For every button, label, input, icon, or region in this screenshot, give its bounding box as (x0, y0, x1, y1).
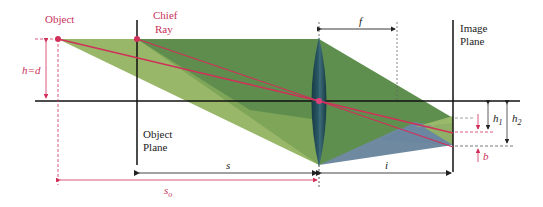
chief-ray-label-1: Chief (153, 9, 178, 21)
light-cones (58, 39, 453, 165)
object-label: Object (45, 13, 74, 25)
h2-label: h2 (512, 112, 522, 127)
object-point (55, 36, 61, 42)
image-plane-label-1: Image (460, 22, 488, 34)
thin-lens-diagram: Object Chief Ray Object Plane Image Plan… (0, 0, 543, 207)
b-label: b (483, 150, 489, 162)
object-plane-label-1: Object (143, 128, 172, 140)
s-label: s (226, 159, 230, 171)
chief-ray-point (134, 36, 140, 42)
h-eq-d-label: h=d (22, 64, 41, 76)
focal-length-label: f (359, 15, 364, 27)
h1-label: h1 (493, 112, 503, 127)
object-plane-label-2: Plane (143, 141, 168, 153)
image-plane-label-2: Plane (460, 35, 485, 47)
i-label: i (385, 159, 388, 171)
lens-center-point (316, 98, 322, 104)
s-o-label: so (164, 184, 172, 199)
chief-ray-label-2: Ray (155, 23, 173, 35)
